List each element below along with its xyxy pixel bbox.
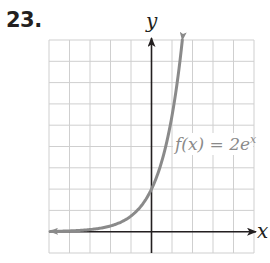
function-label: f(x) = 2ex [173,133,257,154]
exponential-graph: f(x) = 2ex y x [0,0,270,263]
x-axis-label: x [257,219,268,243]
y-axis-label: y [145,9,158,33]
